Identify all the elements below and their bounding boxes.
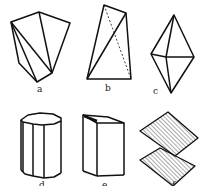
crystal-shapes-figure (0, 0, 205, 186)
label-b: b (105, 84, 111, 93)
label-e: e (102, 181, 107, 186)
shape-d-octagonal-prism (21, 113, 61, 178)
shape-c-bipyramid (151, 15, 194, 93)
shape-b-wedge (87, 5, 131, 79)
label-d: d (39, 181, 45, 186)
upper-plate (140, 112, 198, 156)
lower-plate (140, 148, 195, 186)
label-a: a (37, 85, 42, 94)
shape-e-rectangular-prism (83, 115, 124, 176)
label-c: c (153, 87, 158, 96)
shape-f-tabular-plates (140, 112, 198, 186)
shape-a-polyhedron (11, 12, 70, 82)
label-f: f (172, 181, 175, 186)
